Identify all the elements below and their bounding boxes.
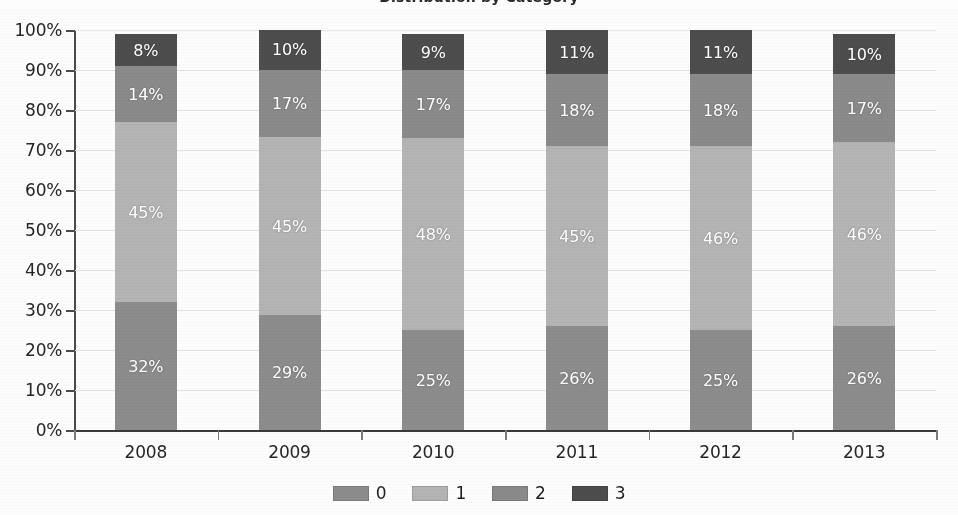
bar-segment-series-0[interactable]: 25% [402,330,464,430]
bar-segment-value-label: 18% [703,101,738,120]
x-axis-tick [649,430,651,440]
y-axis-tick-label: 90% [0,60,62,80]
bar-segment-series-1[interactable]: 45% [115,122,177,302]
bar-segment-series-1[interactable]: 48% [402,138,464,330]
bar-column[interactable]: 32%45%14%8% [115,30,177,430]
x-axis-labels: 200820092010201120122013 [74,442,936,470]
bars-group: 32%45%14%8%29%45%17%10%25%48%17%9%26%45%… [74,30,936,430]
x-axis-tick-label: 2009 [268,442,310,462]
legend-item-1[interactable]: 1 [412,485,466,502]
bar-segment-series-3[interactable]: 9% [402,34,464,70]
x-axis-tick [505,430,507,440]
bar-segment-value-label: 46% [703,229,738,248]
bar-segment-series-2[interactable]: 17% [402,70,464,138]
y-axis-tick-label: 40% [0,260,62,280]
y-axis-tick-label: 50% [0,220,62,240]
bar-segment-value-label: 25% [416,371,451,390]
bar-segment-series-2[interactable]: 18% [690,74,752,146]
bar-segment-value-label: 45% [128,203,163,222]
x-axis-tick [936,430,938,440]
legend-item-0[interactable]: 0 [333,485,387,502]
bar-segment-series-3[interactable]: 10% [833,34,895,74]
bar-segment-value-label: 10% [272,40,307,59]
bar-segment-series-1[interactable]: 46% [690,146,752,330]
y-axis-tick-label: 80% [0,100,62,120]
bar-segment-value-label: 46% [847,225,882,244]
y-axis-tick-label: 100% [0,20,62,40]
bar-column[interactable]: 29%45%17%10% [259,30,321,430]
bar-segment-series-0[interactable]: 32% [115,302,177,430]
y-axis-tick [66,310,75,312]
bar-column[interactable]: 26%45%18%11% [546,30,608,430]
x-axis-tick-label: 2008 [125,442,167,462]
bar-column[interactable]: 26%46%17%10% [833,30,895,430]
y-axis-tick [66,150,75,152]
bar-segment-value-label: 25% [703,371,738,390]
legend-item-2[interactable]: 2 [492,485,546,502]
x-axis-tick [218,430,220,440]
y-axis-tick-label: 10% [0,380,62,400]
y-axis-tick-label: 20% [0,340,62,360]
chart-legend: 0123 [0,480,958,506]
bar-segment-value-label: 45% [272,217,307,236]
x-axis-tick-label: 2013 [843,442,885,462]
bar-segment-series-3[interactable]: 8% [115,34,177,66]
legend-swatch-icon [492,486,528,501]
y-axis-tick [66,110,75,112]
y-axis-tick [66,390,75,392]
bar-segment-value-label: 48% [416,225,451,244]
stacked-bar-chart: 0%10%20%30%40%50%60%70%80%90%100% 32%45%… [0,10,958,515]
y-axis-tick-label: 60% [0,180,62,200]
bar-segment-series-3[interactable]: 11% [690,30,752,74]
bar-segment-value-label: 11% [703,43,738,62]
bar-segment-series-2[interactable]: 17% [833,74,895,142]
legend-label: 2 [535,485,546,502]
bar-segment-series-1[interactable]: 46% [833,142,895,326]
y-axis-tick-label: 30% [0,300,62,320]
bar-column[interactable]: 25%46%18%11% [690,30,752,430]
bar-segment-value-label: 17% [272,94,307,113]
x-axis-tick [361,430,363,440]
bar-segment-value-label: 17% [416,95,451,114]
bar-segment-value-label: 26% [559,369,594,388]
legend-swatch-icon [333,486,369,501]
bar-segment-series-0[interactable]: 29% [259,315,321,430]
y-axis-tick-label: 0% [0,420,62,440]
y-axis-tick [66,190,75,192]
legend-swatch-icon [412,486,448,501]
legend-label: 3 [615,485,626,502]
x-axis-tick-label: 2011 [556,442,598,462]
bar-segment-series-2[interactable]: 18% [546,74,608,146]
page-title: Distribution by Category [0,0,958,3]
bar-segment-value-label: 10% [847,45,882,64]
legend-item-3[interactable]: 3 [572,485,626,502]
bar-segment-value-label: 9% [421,43,446,62]
bar-segment-series-3[interactable]: 11% [546,30,608,74]
bar-segment-series-0[interactable]: 26% [546,326,608,430]
bar-column[interactable]: 25%48%17%9% [402,30,464,430]
bar-segment-series-2[interactable]: 17% [259,70,321,137]
y-axis-tick [66,30,75,32]
y-axis-tick [66,70,75,72]
bar-segment-series-1[interactable]: 45% [546,146,608,326]
bar-segment-value-label: 45% [559,227,594,246]
bar-segment-series-1[interactable]: 45% [259,137,321,315]
legend-label: 0 [376,485,387,502]
x-axis-tick-label: 2012 [699,442,741,462]
bar-segment-series-0[interactable]: 25% [690,330,752,430]
y-axis-tick [66,270,75,272]
bar-segment-value-label: 18% [559,101,594,120]
bar-segment-value-label: 14% [128,85,163,104]
bar-segment-series-3[interactable]: 10% [259,30,321,70]
bar-segment-value-label: 8% [133,41,158,60]
bar-segment-value-label: 17% [847,99,882,118]
bar-segment-value-label: 32% [128,357,163,376]
bar-segment-series-2[interactable]: 14% [115,66,177,122]
bar-segment-series-0[interactable]: 26% [833,326,895,430]
y-axis-tick [66,230,75,232]
bar-segment-value-label: 26% [847,369,882,388]
legend-label: 1 [455,485,466,502]
x-axis-tick-label: 2010 [412,442,454,462]
y-axis-tick [66,350,75,352]
x-axis-tick [792,430,794,440]
